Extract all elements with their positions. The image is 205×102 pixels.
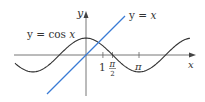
tick-label-1: 1 — [99, 61, 106, 73]
x-axis-label: x — [188, 59, 194, 70]
tick-label-pi-over-2-denominator: 2 — [110, 70, 114, 78]
y-axis-arrow-icon — [84, 11, 89, 18]
tick-label-pi-over-2-numerator: π — [109, 59, 116, 69]
x-axis-arrow-icon — [189, 53, 196, 58]
y-axis-label: y — [76, 7, 84, 20]
function-plot: y x y = cos x y = x 1 π 2 π — [0, 0, 205, 102]
identity-line-label: y = x — [128, 9, 156, 21]
tick-label-pi: π — [134, 61, 142, 72]
cos-curve-label: y = cos x — [26, 28, 75, 40]
